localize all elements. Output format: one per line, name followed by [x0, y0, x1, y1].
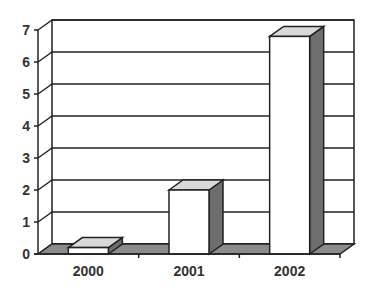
gridline-diagonal [38, 116, 52, 126]
y-tick-label: 1 [22, 214, 30, 230]
y-tick-label: 7 [22, 22, 30, 38]
gridline-diagonal [38, 180, 52, 190]
x-tick-label: 2001 [173, 263, 204, 279]
gridline-diagonal [38, 84, 52, 94]
bar-side [310, 26, 324, 254]
bar-side [209, 180, 223, 254]
y-tick-label: 5 [22, 86, 30, 102]
x-axis: 200020012002 [34, 254, 340, 279]
bar-chart-3d: 01234567 200020012002 [0, 0, 375, 304]
x-tick-label: 2000 [73, 263, 104, 279]
y-tick-label: 2 [22, 182, 30, 198]
y-tick-label: 4 [22, 118, 30, 134]
y-tick-label: 6 [22, 54, 30, 70]
gridline-diagonal [38, 20, 52, 30]
gridline-diagonal [38, 212, 52, 222]
bar-front [68, 248, 108, 254]
bar-front [270, 36, 310, 254]
bar-2001 [169, 180, 223, 254]
gridline-diagonal [38, 148, 52, 158]
bar-front [169, 190, 209, 254]
x-tick-label: 2002 [274, 263, 305, 279]
y-tick-label: 3 [22, 150, 30, 166]
y-axis: 01234567 [22, 22, 38, 262]
gridline-diagonal [38, 52, 52, 62]
bar-2002 [270, 26, 324, 254]
y-tick-label: 0 [22, 246, 30, 262]
